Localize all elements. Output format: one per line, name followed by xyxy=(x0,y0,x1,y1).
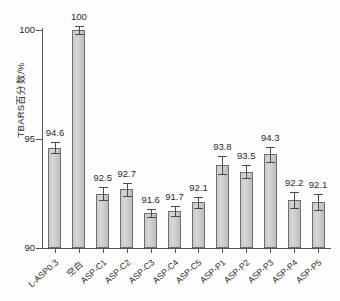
error-bar-cap-lower xyxy=(123,196,132,197)
error-bar-cap-lower xyxy=(194,208,203,209)
x-tick xyxy=(55,249,56,253)
error-bar-cap-upper xyxy=(194,197,203,198)
error-bar-line xyxy=(79,26,80,34)
x-tick xyxy=(222,249,223,253)
error-bar-cap-lower xyxy=(171,216,180,217)
error-bar-line xyxy=(294,192,295,209)
bar-value-label: 94.3 xyxy=(252,132,288,143)
error-bar-cap-lower xyxy=(266,162,275,163)
bar-chart: TBARS百分数/% 9095100 L-ASP0.3空白ASP-C1ASP-C… xyxy=(0,0,340,301)
error-bar-line xyxy=(151,209,152,218)
x-tick xyxy=(318,249,319,253)
error-bar-cap-upper xyxy=(99,187,108,188)
bar-value-label: 92.1 xyxy=(300,179,336,190)
error-bar-cap-upper xyxy=(123,183,132,184)
y-axis-title: TBARS百分数/% xyxy=(13,30,29,170)
error-bar-line xyxy=(270,147,271,162)
error-bar-line xyxy=(246,165,247,178)
error-bar-cap-upper xyxy=(290,192,299,193)
error-bar-cap-upper xyxy=(266,147,275,148)
bar xyxy=(120,189,133,248)
error-bar-cap-upper xyxy=(314,194,323,195)
error-bar-cap-upper xyxy=(218,156,227,157)
bar xyxy=(192,202,205,248)
error-bar-line xyxy=(103,187,104,201)
error-bar-cap-lower xyxy=(99,200,108,201)
bar-value-label: 92.7 xyxy=(109,168,145,179)
y-tick-100 xyxy=(36,30,43,31)
x-tick xyxy=(294,249,295,253)
error-bar-cap-lower xyxy=(51,153,60,154)
error-bar-line xyxy=(127,183,128,196)
error-bar-line xyxy=(198,197,199,208)
error-bar-line xyxy=(222,156,223,173)
error-bar-line xyxy=(55,142,56,153)
error-bar-cap-lower xyxy=(290,208,299,209)
y-tick-90 xyxy=(36,248,43,249)
bar-value-label: 93.5 xyxy=(228,150,264,161)
x-tick xyxy=(246,249,247,253)
error-bar-cap-upper xyxy=(171,206,180,207)
error-bar-cap-lower xyxy=(314,210,323,211)
x-tick xyxy=(270,249,271,253)
error-bar-cap-lower xyxy=(147,217,156,218)
error-bar-line xyxy=(318,194,319,210)
bar xyxy=(240,172,253,248)
error-bar-cap-upper xyxy=(147,209,156,210)
x-tick xyxy=(151,249,152,253)
x-tick xyxy=(198,249,199,253)
bar-value-label: 100 xyxy=(61,11,97,22)
x-tick xyxy=(79,249,80,253)
bar xyxy=(96,194,109,249)
x-tick xyxy=(127,249,128,253)
error-bar-cap-upper xyxy=(51,142,60,143)
x-tick xyxy=(103,249,104,253)
bar xyxy=(264,154,277,248)
error-bar-cap-upper xyxy=(242,165,251,166)
y-tick-label-90: 90 xyxy=(8,242,35,253)
error-bar-cap-upper xyxy=(75,26,84,27)
bar-value-label: 91.7 xyxy=(157,191,193,202)
y-tick-label-100: 100 xyxy=(8,24,35,35)
x-axis-line xyxy=(42,248,331,249)
bar xyxy=(72,30,85,248)
error-bar-line xyxy=(175,206,176,216)
y-tick-95 xyxy=(36,139,43,140)
error-bar-cap-lower xyxy=(218,174,227,175)
bar-value-label: 92.1 xyxy=(180,182,216,193)
error-bar-cap-lower xyxy=(75,34,84,35)
error-bar-cap-lower xyxy=(242,178,251,179)
bar xyxy=(48,148,61,248)
bar-value-label: 94.6 xyxy=(37,127,73,138)
y-tick-label-95: 95 xyxy=(8,133,35,144)
bar xyxy=(216,165,229,248)
x-tick xyxy=(175,249,176,253)
